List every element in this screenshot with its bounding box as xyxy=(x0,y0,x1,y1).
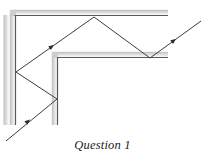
figure-caption: Question 1 xyxy=(0,138,205,153)
inner-mirror-corner-shadow xyxy=(52,52,58,58)
outer-mirror-vertical-shadow xyxy=(4,15,10,125)
inner-mirror-shadow-group xyxy=(52,52,168,125)
outer-mirror-horizontal-shadow xyxy=(15,10,169,16)
outer-mirror-shadow-group xyxy=(4,10,169,125)
outer-mirror-group xyxy=(15,15,169,125)
inner-mirror-group xyxy=(57,57,168,125)
figure-container: Question 1 xyxy=(0,0,205,162)
outer-mirror-vertical-shadow-2 xyxy=(10,15,16,126)
inner-mirror-vertical-shadow xyxy=(52,57,58,126)
light-ray-group xyxy=(6,17,201,141)
light-ray-path xyxy=(6,17,201,141)
